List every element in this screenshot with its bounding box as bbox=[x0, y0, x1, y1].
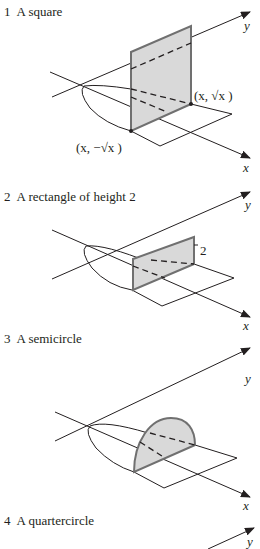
figure-square: 1A square y x (x, √x ) (x, −√x ) bbox=[0, 0, 260, 180]
figure-semicircle: 3A semicircle y x bbox=[0, 330, 260, 510]
parabola-curve bbox=[82, 85, 131, 131]
point-upper bbox=[189, 102, 193, 106]
y-axis-label: y bbox=[242, 18, 250, 33]
point-lower bbox=[129, 129, 133, 133]
point-lower-label: (x, −√x ) bbox=[76, 140, 122, 155]
quartercircle-cross-section-diagram: y bbox=[0, 510, 260, 549]
figure-quartercircle: 4A quartercircle y bbox=[0, 510, 260, 549]
y-axis-label: y bbox=[245, 534, 253, 549]
square-shape bbox=[131, 26, 191, 131]
height-label: 2 bbox=[200, 243, 207, 258]
y-axis-label: y bbox=[243, 197, 251, 212]
rectangle-cross-section-diagram: 2 y x bbox=[0, 180, 260, 330]
y-axis-label: y bbox=[243, 371, 251, 386]
semicircle-cross-section-diagram: y x bbox=[0, 330, 260, 510]
semicircle-shape bbox=[134, 418, 195, 472]
x-axis-label: x bbox=[242, 160, 249, 175]
square-cross-section-diagram: y x (x, √x ) (x, −√x ) bbox=[0, 0, 260, 180]
figure-rectangle: 2A rectangle of height 2 2 y x bbox=[0, 180, 260, 330]
point-upper-label: (x, √x ) bbox=[194, 88, 233, 103]
